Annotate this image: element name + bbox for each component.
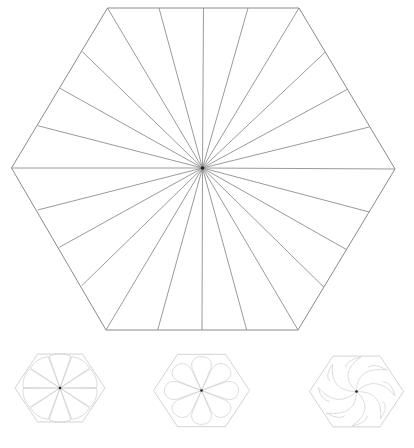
radial-line [59, 168, 202, 247]
center-point [200, 389, 203, 392]
thumbnail-swirl-petals [310, 356, 404, 427]
diagram-canvas [0, 0, 414, 448]
radial-line [158, 168, 203, 330]
petal-curve [357, 382, 395, 396]
radial-line [203, 8, 204, 168]
radial-line [203, 8, 249, 168]
radial-line [203, 168, 370, 212]
petal-curve [202, 364, 231, 391]
petal-curve [202, 391, 231, 418]
petal-curve [328, 364, 357, 391]
center-point [59, 387, 62, 390]
petal-curve [352, 392, 367, 426]
petal-curve [346, 357, 361, 391]
radial-line [203, 89, 348, 168]
radial-line [159, 8, 203, 168]
petal-curve [192, 357, 212, 391]
radial-line [203, 8, 300, 168]
radial-line [203, 168, 396, 169]
radial-line [203, 168, 348, 250]
petal-curve [172, 364, 201, 391]
thumbnail-lobed-petals [154, 354, 250, 426]
radial-line [106, 168, 203, 330]
radial-line [82, 52, 202, 168]
radial-line [82, 168, 203, 286]
radial-line [203, 168, 299, 330]
petal-curve [172, 391, 201, 418]
radial-line [202, 168, 203, 330]
radial-line [38, 126, 203, 168]
petal-curve [318, 388, 356, 402]
petal-curve [192, 391, 212, 425]
radial-line [108, 8, 203, 168]
radial-line [38, 168, 203, 210]
main-hexagon-group [12, 8, 396, 330]
radial-line [60, 88, 203, 168]
radial-line [203, 168, 325, 287]
radial-line [203, 168, 247, 330]
hexagon-radial-figure [0, 0, 414, 448]
petal-curve [202, 381, 239, 399]
petal-curve [164, 381, 201, 399]
thumbnail-teardrop-petals [15, 354, 105, 423]
petal-curve [357, 392, 386, 419]
radial-line [203, 52, 326, 168]
center-point [201, 166, 205, 170]
center-point [355, 390, 358, 393]
radial-line [203, 127, 370, 168]
